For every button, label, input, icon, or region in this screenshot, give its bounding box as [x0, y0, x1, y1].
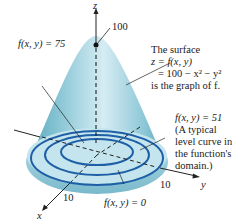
- x-axis-label: x: [37, 210, 42, 221]
- y-axis-label: y: [201, 179, 206, 190]
- x-tick-10: 10: [63, 192, 74, 203]
- surface-caption: The surface z = f(x, y) = 100 − x² − y² …: [151, 44, 221, 92]
- level-75-label: f(x, y) = 75: [18, 38, 65, 49]
- level-0-label: f(x, y) = 0: [104, 197, 146, 208]
- level-51-caption: f(x, y) = 51 (A typical level curve in t…: [175, 112, 232, 172]
- z-axis-label: z: [93, 0, 97, 11]
- peak-value-label: 100: [112, 21, 128, 32]
- y-tick-10: 10: [160, 179, 171, 190]
